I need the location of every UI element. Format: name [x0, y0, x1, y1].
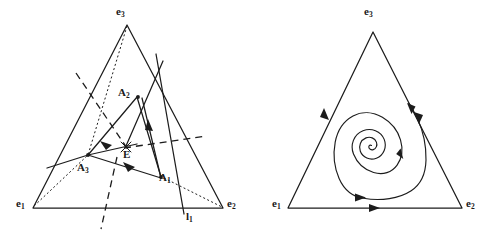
dot-A3	[86, 153, 90, 157]
segment-A1-to-A2-up	[142, 98, 161, 178]
arrowhead-spiral-lower	[355, 194, 366, 202]
right-panel-group	[288, 32, 462, 212]
left-vertex-e3-label: e3	[116, 6, 125, 17]
dashed-horizontal-through-E	[124, 136, 206, 148]
dashed-line-E-to-below-baseline	[101, 157, 117, 229]
right-vertex-e1-label: e1	[272, 198, 281, 209]
arrowhead-edge-e3-to-e1	[320, 108, 329, 120]
left-point-A1-label: A1	[159, 172, 171, 183]
left-line-l1-label: l1	[186, 211, 193, 222]
dot-A2	[136, 95, 140, 99]
arrowhead-A1-to-A2	[145, 119, 153, 131]
left-point-E-label: E	[123, 149, 130, 160]
spiral-trajectory	[334, 103, 426, 199]
arrowhead-A2-to-A3	[100, 141, 112, 150]
right-vertex-e2-label: e2	[466, 198, 475, 209]
left-vertex-e1-label: e1	[16, 198, 25, 209]
figure-two-simplex-diagrams: e1 e2 e3 A1 A2 A3 E l1 e1 e2 e3	[0, 0, 496, 245]
left-point-A2-label: A2	[118, 87, 130, 98]
arrowhead-edge-e1-to-e2	[369, 204, 380, 212]
figure-canvas	[0, 0, 496, 245]
dashed-line-upper-left-to-E	[76, 73, 129, 151]
right-triangle-outline	[288, 32, 462, 208]
line-l1-stroke	[156, 54, 184, 214]
left-panel-group	[33, 25, 223, 229]
left-triangle-outline	[33, 25, 223, 208]
right-vertex-e3-label: e3	[364, 6, 373, 17]
left-point-A3-label: A3	[77, 162, 89, 173]
left-vertex-e2-label: e2	[227, 198, 236, 209]
